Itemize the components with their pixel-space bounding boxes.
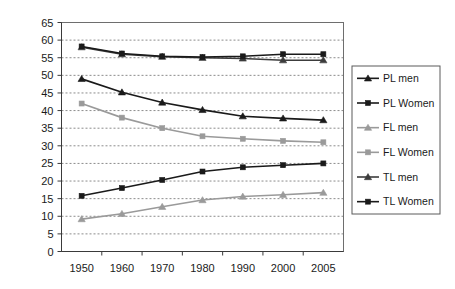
y-tick-label: 60 (41, 34, 53, 46)
data-point-marker (160, 126, 165, 131)
data-point-marker (160, 54, 165, 59)
data-point-marker (79, 193, 84, 198)
data-point-marker (119, 186, 124, 191)
data-point-marker (79, 101, 84, 106)
y-tick-label: 55 (41, 52, 53, 64)
y-tick-label: 0 (47, 246, 53, 258)
data-point-marker (160, 177, 165, 182)
y-tick-label: 15 (41, 193, 53, 205)
data-point-marker (200, 55, 205, 60)
chart-legend: PL menPL WomenFL menFL WomenTL menTL Wom… (352, 66, 440, 214)
data-point-marker (281, 163, 286, 168)
legend-label: PL men (383, 72, 419, 84)
x-tick-label: 1980 (190, 262, 214, 274)
data-point-marker (321, 52, 326, 57)
x-tick-label: 1950 (69, 262, 93, 274)
y-tick-label: 40 (41, 105, 53, 117)
legend-marker-icon (366, 150, 371, 155)
data-point-marker (200, 169, 205, 174)
x-tick-label: 1970 (150, 262, 174, 274)
y-tick-label: 65 (41, 17, 53, 29)
data-point-marker (119, 51, 124, 56)
legend-marker-icon (366, 101, 371, 106)
legend-label: FL men (383, 121, 418, 133)
data-point-marker (119, 115, 124, 120)
x-tick-label: 2005 (311, 262, 335, 274)
legend-label: TL Women (383, 195, 434, 207)
y-tick-label: 30 (41, 140, 53, 152)
x-tick-label: 2000 (271, 262, 295, 274)
data-point-marker (240, 136, 245, 141)
y-tick-label: 50 (41, 69, 53, 81)
y-tick-label: 20 (41, 175, 53, 187)
legend-label: FL Women (383, 146, 434, 158)
data-point-marker (281, 52, 286, 57)
data-point-marker (281, 138, 286, 143)
y-tick-label: 5 (47, 228, 53, 240)
legend-box (352, 66, 440, 214)
y-tick-label: 45 (41, 87, 53, 99)
y-tick-label: 25 (41, 157, 53, 169)
data-point-marker (200, 134, 205, 139)
data-point-marker (321, 140, 326, 145)
data-point-marker (240, 165, 245, 170)
x-tick-label: 1990 (231, 262, 255, 274)
data-point-marker (240, 54, 245, 59)
chart-canvas: 05101520253035404550556065 1950196019701… (0, 0, 455, 289)
legend-marker-icon (366, 199, 371, 204)
legend-label: PL Women (383, 97, 435, 109)
y-tick-label: 35 (41, 122, 53, 134)
legend-label: TL men (383, 171, 418, 183)
line-chart: 05101520253035404550556065 1950196019701… (0, 0, 455, 289)
data-point-marker (79, 44, 84, 49)
data-point-marker (321, 161, 326, 166)
y-tick-label: 10 (41, 210, 53, 222)
x-tick-label: 1960 (110, 262, 134, 274)
